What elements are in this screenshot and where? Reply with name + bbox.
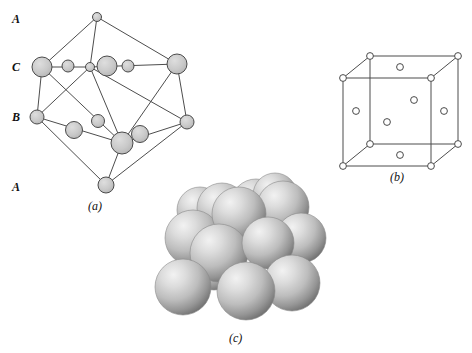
site-face-left <box>353 108 360 115</box>
stack-label-b: B <box>12 111 20 123</box>
atom-c-right <box>167 54 187 74</box>
panel-a-rhombohedral-cell <box>30 13 194 194</box>
site-corner-front-tl <box>340 75 347 82</box>
site-corner-back-br <box>455 141 462 148</box>
site-corner-back-tl <box>367 53 374 60</box>
site-corner-front-tr <box>428 75 435 82</box>
panel-b-lattice-sites <box>340 53 462 170</box>
atom-b-s2 <box>132 126 149 143</box>
edge-apex-to-c-mid <box>90 17 97 67</box>
atom-b-vertex <box>92 115 105 128</box>
site-face-top <box>397 64 404 71</box>
site-corner-front-bl <box>340 163 347 170</box>
atom-c-big <box>97 56 117 76</box>
site-face-front <box>384 119 391 126</box>
atom-bottom-apex <box>98 177 114 193</box>
sphere-front-1 <box>155 259 211 315</box>
stack-label-a-bottom: A <box>12 181 20 193</box>
edge-c-right-to-b-mid <box>122 64 177 143</box>
panel-a-atoms <box>30 13 194 194</box>
panel-b-fcc-unit-cell <box>340 53 462 170</box>
panel-a-cell-edges <box>37 17 187 185</box>
site-corner-back-bl <box>367 141 374 148</box>
stack-label-a-top: A <box>12 13 20 25</box>
atom-b-s1 <box>66 122 83 139</box>
caption-panel-c: (c) <box>229 332 242 344</box>
edge-apex-to-c-left <box>42 17 97 67</box>
atom-c-left <box>32 57 52 77</box>
site-corner-front-br <box>428 163 435 170</box>
atom-b-right <box>180 115 194 129</box>
atom-c-vertex <box>86 63 95 72</box>
panel-c-hard-sphere-model <box>155 173 326 320</box>
atom-b-big <box>111 132 133 154</box>
caption-panel-a: (a) <box>88 200 102 212</box>
atom-c-s2 <box>122 60 134 72</box>
cube-edge-tr <box>431 56 458 78</box>
site-face-back <box>411 97 418 104</box>
stack-label-c: C <box>12 61 20 73</box>
panel-c-spheres <box>155 173 326 320</box>
sphere-front-3 <box>217 262 275 320</box>
atom-c-s1 <box>62 60 74 72</box>
cube-edge-bl <box>343 144 370 166</box>
cube-edge-tl <box>343 56 370 78</box>
caption-panel-b: (b) <box>390 171 404 183</box>
atom-b-left <box>30 110 44 124</box>
site-face-bottom <box>397 152 404 159</box>
site-face-right <box>441 108 448 115</box>
edge-c-mid-to-b-mid <box>90 67 122 143</box>
cube-edge-br <box>431 144 458 166</box>
site-corner-back-tr <box>455 53 462 60</box>
atom-top-apex <box>93 13 102 22</box>
